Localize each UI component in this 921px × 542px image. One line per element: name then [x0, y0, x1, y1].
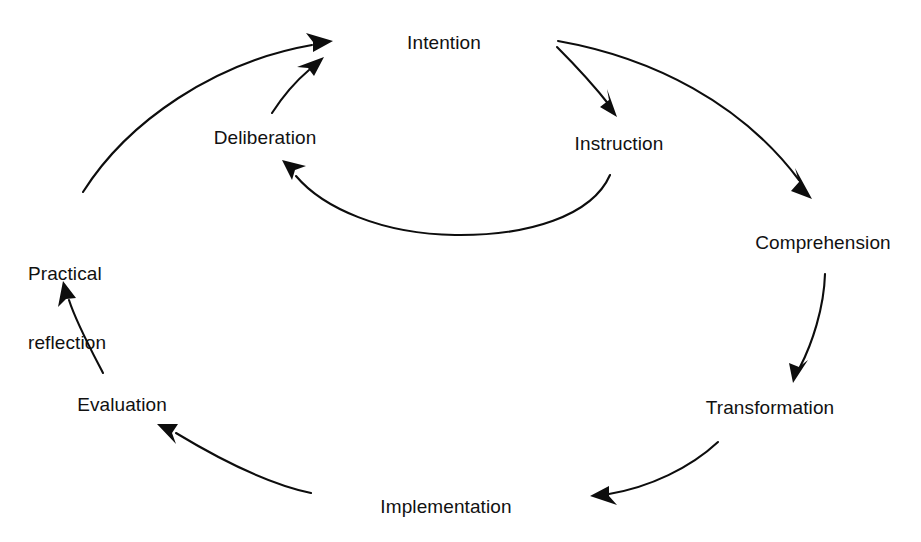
reflective-cycle-diagram: Intention Instruction Comprehension Tran… — [0, 0, 921, 542]
edge-deliberation-to-intention — [272, 57, 324, 113]
cycle-arrows-layer — [0, 0, 921, 542]
edge-instruction-to-deliberation — [282, 160, 610, 235]
edge-path-intention-to-instruction — [557, 47, 610, 106]
node-label-intention: Intention — [407, 31, 481, 54]
arrowhead-implementation — [590, 486, 617, 505]
node-label-practical-reflection-line2: reflection — [28, 331, 106, 354]
node-label-comprehension: Comprehension — [755, 231, 890, 254]
node-label-practical-reflection-line1: Practical — [28, 262, 106, 285]
arrowhead-transformation — [789, 360, 808, 383]
edge-path-intention-to-comprehension — [558, 41, 799, 180]
edge-path-comprehension-to-transformation — [800, 274, 825, 367]
edge-path-instruction-to-deliberation — [296, 175, 610, 235]
edge-path-deliberation-to-intention — [272, 70, 309, 113]
arrowhead-intention-outer — [306, 33, 333, 52]
arrowhead-intention-inner — [297, 57, 324, 76]
node-label-deliberation: Deliberation — [214, 126, 317, 149]
edge-intention-to-comprehension — [558, 41, 812, 199]
node-label-transformation: Transformation — [706, 396, 834, 419]
edge-intention-to-instruction — [557, 47, 617, 117]
edge-implementation-to-evaluation — [157, 424, 311, 493]
edge-path-transformation-to-implementation — [609, 442, 718, 494]
node-label-implementation: Implementation — [380, 495, 511, 518]
arrowhead-instruction — [600, 89, 617, 117]
arrowhead-evaluation — [157, 424, 178, 444]
edge-comprehension-to-transformation — [789, 274, 825, 383]
edge-path-implementation-to-evaluation — [176, 433, 311, 493]
arrowhead-deliberation — [282, 160, 306, 180]
node-label-practical-reflection: Practical reflection — [28, 216, 106, 400]
node-label-instruction: Instruction — [575, 132, 664, 155]
edge-path-practical-reflection-to-intention — [83, 45, 312, 192]
edge-transformation-to-implementation — [590, 442, 718, 505]
